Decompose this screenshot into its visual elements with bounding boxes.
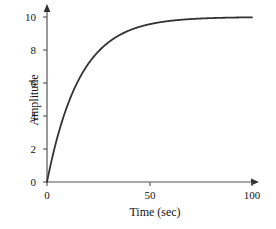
chart-figure: 0 2 4 6 8 10 0 50 100 Time (sec) Amplitu… xyxy=(0,0,276,229)
x-tick-label-50: 50 xyxy=(145,190,156,201)
data-series-step-response xyxy=(47,17,252,182)
chart-plot-area xyxy=(0,0,276,229)
y-axis-arrowhead xyxy=(44,4,51,12)
y-axis-title: Amplitude xyxy=(27,74,41,125)
x-axis-title: Time (sec) xyxy=(129,205,180,219)
x-tick-label-0: 0 xyxy=(44,190,50,201)
y-tick-label-10: 10 xyxy=(16,12,36,23)
y-tick-label-0: 0 xyxy=(22,177,36,188)
y-tick-label-8: 8 xyxy=(22,45,36,56)
y-tick-label-2: 2 xyxy=(22,144,36,155)
x-tick-label-100: 100 xyxy=(244,190,261,201)
x-axis-ticks xyxy=(47,182,252,186)
